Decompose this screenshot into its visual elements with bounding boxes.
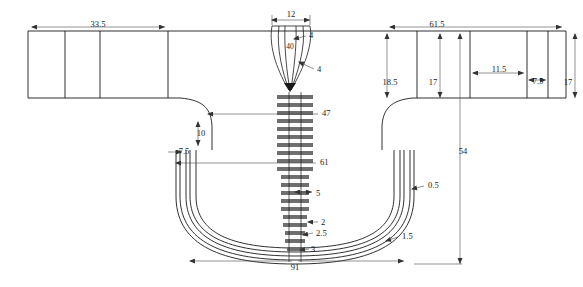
dimension-labels: 33.5 12 61.5 4 40 4 18.5 17 11.5 7.5 17 … — [91, 9, 573, 272]
drawing-canvas: 33.5 12 61.5 4 40 4 18.5 17 11.5 7.5 17 … — [0, 0, 583, 287]
dim-label-7-5-r: 7.5 — [533, 76, 544, 86]
dim-label-17-b: 17 — [564, 77, 573, 87]
dim-label-0-5: 0.5 — [428, 180, 439, 190]
dim-label-61-5: 61.5 — [430, 19, 445, 29]
dim-label-12: 12 — [287, 9, 296, 19]
dim-label-2-5: 2.5 — [316, 228, 327, 238]
dim-label-2: 2 — [321, 217, 325, 227]
dim-label-4-low: 4 — [317, 64, 322, 74]
dim-label-1-5: 1.5 — [402, 231, 413, 241]
dim-label-91: 91 — [291, 262, 300, 272]
top-nozzle-fan — [271, 26, 311, 90]
dim-label-17-a: 17 — [429, 77, 438, 87]
nozzle-tip-arrow — [284, 83, 296, 92]
dim-label-40: 40 — [286, 42, 294, 51]
technical-drawing-svg: 33.5 12 61.5 4 40 4 18.5 17 11.5 7.5 17 … — [0, 0, 583, 287]
dim-label-33-5: 33.5 — [91, 19, 106, 29]
dim-label-5: 5 — [316, 188, 320, 198]
dim-label-18-5: 18.5 — [383, 77, 398, 87]
dim-label-7-5-l: 7.5 — [179, 146, 190, 156]
center-ladder — [277, 95, 313, 251]
dim-label-4-top: 4 — [309, 30, 314, 40]
dim-label-47: 47 — [322, 108, 331, 118]
dim-label-3: 3 — [311, 244, 315, 254]
dim-label-10: 10 — [197, 128, 206, 138]
dim-label-54: 54 — [459, 146, 468, 156]
dim-label-11-5: 11.5 — [492, 64, 507, 74]
part-outline — [28, 31, 566, 150]
dim-label-61: 61 — [320, 157, 329, 167]
